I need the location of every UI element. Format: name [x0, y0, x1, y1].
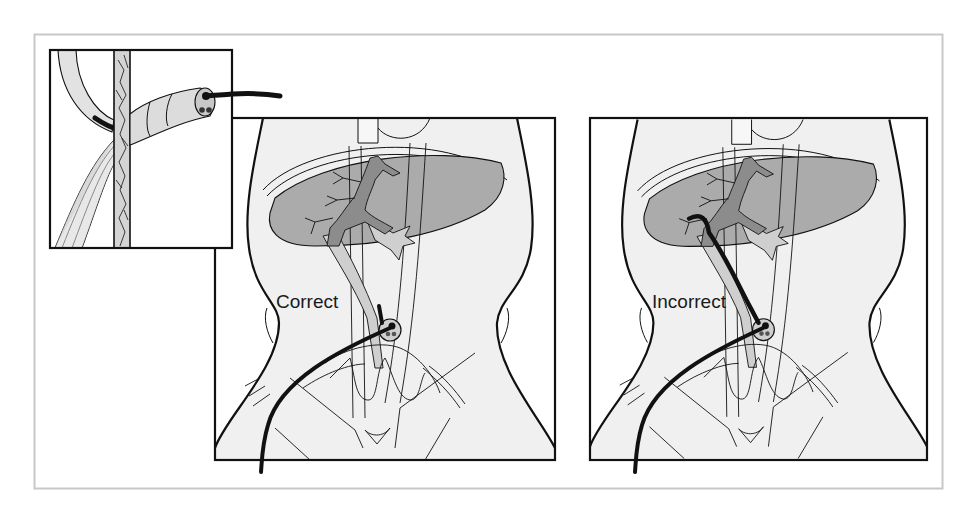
panel-correct: Correct	[215, 118, 555, 472]
diagram-canvas: Correct Incorrect	[0, 0, 966, 509]
label-correct: Correct	[276, 291, 339, 312]
label-incorrect: Incorrect	[652, 291, 727, 312]
catheter-tail	[232, 94, 280, 96]
panel-incorrect: Incorrect	[590, 118, 927, 472]
